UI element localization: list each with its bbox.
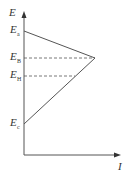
y-axis-label: E: [8, 6, 16, 18]
level-label-a: E a: [9, 23, 20, 37]
upper-line: [24, 31, 95, 58]
svg-text:E: E: [9, 23, 17, 35]
svg-text:H: H: [17, 76, 22, 82]
svg-text:a: a: [17, 31, 20, 37]
level-label-c: E c: [9, 116, 20, 130]
svg-text:B: B: [17, 58, 21, 64]
svg-text:E: E: [9, 116, 17, 128]
svg-text:E: E: [9, 50, 17, 62]
diagram-canvas: E I E a E B E H E c: [0, 0, 133, 175]
y-axis-arrow-icon: [22, 11, 27, 18]
x-axis-arrow-icon: [114, 153, 121, 158]
x-axis-label: I: [117, 160, 123, 172]
lower-line: [24, 58, 95, 124]
level-label-b: E B: [9, 50, 21, 64]
level-label-h: E H: [9, 68, 22, 82]
svg-text:c: c: [17, 124, 20, 130]
svg-text:E: E: [9, 68, 17, 80]
